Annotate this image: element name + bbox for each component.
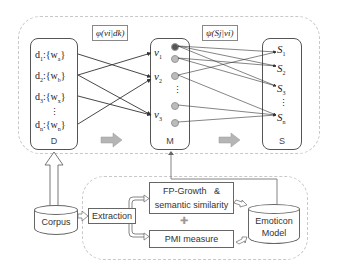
extraction-label: Extraction: [92, 211, 132, 221]
corpus-to-d-arrow-icon: [45, 152, 63, 210]
corpus-to-extraction-arrow-icon: [78, 211, 88, 221]
psi-edges: [178, 46, 276, 122]
corpus-label: Corpus: [34, 217, 78, 227]
pmi-box: PMI measure: [149, 230, 234, 248]
flow-arrow-icon: [101, 133, 122, 147]
fp-growth-box: FP-Growth & semantic similarity: [149, 182, 234, 214]
flow-arrow-icon: [219, 133, 240, 147]
plus-icon: ✚: [180, 215, 188, 226]
phi-edges: [78, 53, 151, 124]
emoticon-model-database: Emoticon Model: [248, 204, 300, 244]
pmi-label: PMI measure: [165, 234, 219, 244]
emoticon-model-label: Emoticon Model: [248, 215, 300, 239]
fp-to-model-arrow-icon: [234, 200, 247, 207]
fp-growth-label: FP-Growth &: [150, 184, 233, 198]
corpus-database: Corpus: [34, 205, 78, 235]
semantic-similarity-label: semantic similarity: [150, 198, 233, 212]
pmi-to-model-arrow-icon: [236, 237, 247, 244]
extraction-box: Extraction: [88, 208, 136, 224]
